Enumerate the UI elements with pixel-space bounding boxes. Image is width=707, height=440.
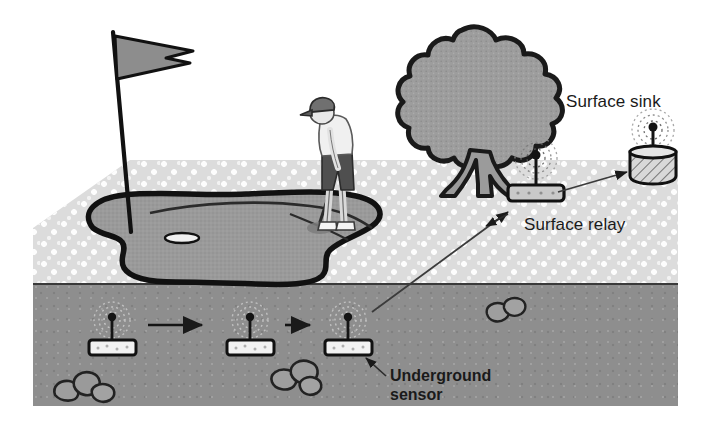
- link-sensor3-relay: [372, 212, 508, 312]
- surface-sink-node[interactable]: [630, 109, 676, 184]
- tree-canopy: [398, 27, 563, 167]
- underground-sensor-1[interactable]: [89, 302, 136, 355]
- rock-cluster-right: [487, 298, 526, 321]
- label-surface-sink: Surface sink: [566, 92, 661, 112]
- tree: [398, 27, 563, 196]
- golf-hole: [165, 233, 199, 243]
- underground-sensor-2[interactable]: [227, 302, 274, 355]
- callout-leader-sensor: [366, 358, 386, 376]
- rock-cluster-mid: [271, 361, 321, 395]
- label-surface-relay: Surface relay: [524, 215, 625, 235]
- flag-pennant: [115, 36, 193, 79]
- rock-cluster-left: [54, 372, 114, 402]
- underground-sensor-3[interactable]: [325, 302, 372, 355]
- figure-canvas: Surface sink Surface relay Underground s…: [0, 0, 707, 440]
- label-underground-sensor: Underground sensor: [390, 366, 491, 404]
- putting-green: [88, 192, 380, 284]
- callout-leader-relay: [486, 214, 508, 226]
- label-underground-sensor-line2: sensor: [390, 385, 491, 404]
- link-relay-sink: [558, 172, 627, 192]
- label-underground-sensor-line1: Underground: [390, 366, 491, 385]
